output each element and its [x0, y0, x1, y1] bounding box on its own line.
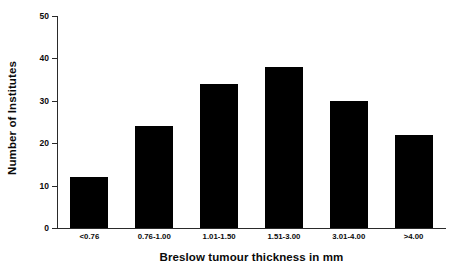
y-axis-title-text: Number of Institutes — [6, 61, 18, 175]
y-axis-tick-label: 20 — [40, 138, 49, 148]
x-axis-tick-label: <0.76 — [80, 232, 100, 241]
bar — [200, 84, 238, 228]
bar-chart-figure: Number of Institutes 01020304050 <0.760.… — [0, 0, 452, 275]
bar — [265, 67, 303, 228]
y-axis-tick-label: 40 — [40, 53, 49, 63]
x-axis-tick-label: 0.76-1.00 — [138, 232, 171, 241]
x-axis-tick-labels: <0.760.76-1.001.01-1.501.51-3.003.01-4.0… — [57, 232, 446, 246]
x-axis-line — [57, 228, 446, 229]
x-axis-tick-label: 3.01-4.00 — [332, 232, 365, 241]
bar — [135, 126, 173, 228]
x-axis-tick-label: 1.01-1.50 — [203, 232, 236, 241]
y-axis-tick-label: 30 — [40, 96, 49, 106]
y-axis-tick-mark — [52, 228, 57, 229]
bar — [395, 135, 433, 228]
plot-area: 01020304050 — [57, 16, 446, 228]
x-axis-tick-label: 1.51-3.00 — [267, 232, 300, 241]
x-axis-title: Breslow tumour thickness in mm — [57, 251, 446, 263]
x-axis-tick-label: >4.00 — [404, 232, 424, 241]
y-axis-title: Number of Institutes — [0, 0, 24, 235]
y-axis-tick-label: 10 — [40, 181, 49, 191]
y-axis-tick-label: 50 — [40, 11, 49, 21]
bar-series — [57, 16, 446, 228]
bar — [70, 177, 108, 228]
bar — [330, 101, 368, 228]
y-axis-tick-label: 0 — [44, 223, 49, 233]
